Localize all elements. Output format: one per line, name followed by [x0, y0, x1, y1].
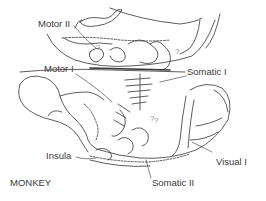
question-mark-annotation: ?: [96, 44, 100, 52]
label-somatic-i: Somatic I: [187, 67, 227, 77]
label-visual-i: Visual I: [216, 157, 247, 167]
label-motor-i: Motor I: [44, 64, 74, 74]
label-somatic-ii: Somatic II: [152, 178, 194, 188]
label-insula: Insula: [46, 151, 71, 161]
leader-motor1: [76, 74, 112, 102]
question-mark-annotation: ?: [175, 48, 179, 56]
upper-cortex-outline: [80, 9, 122, 26]
monkey-brain-drawing: [0, 0, 266, 201]
label-motor-ii: Motor II: [38, 19, 70, 29]
leader-somatic2: [146, 160, 151, 178]
leader-somatic1: [160, 76, 186, 82]
question-mark-annotation: ?: [154, 117, 158, 125]
leader-insula: [76, 157, 96, 159]
label-subject: MONKEY: [10, 178, 51, 188]
